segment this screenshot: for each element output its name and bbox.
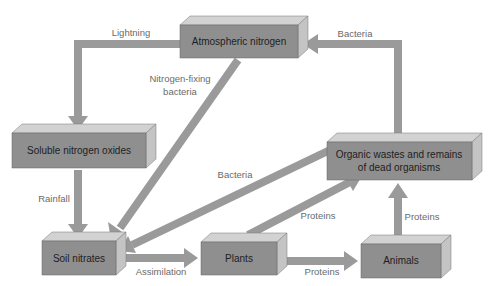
assimilation-label: Assimilation: [136, 266, 187, 277]
proteins-plants-organic-label: Proteins: [301, 210, 336, 221]
plants-label: Plants: [225, 253, 253, 264]
arrow-bacteria-to-atmosphere: [303, 34, 398, 138]
node-soil-nitrates: Soil nitrates: [42, 232, 126, 275]
nitrogen-cycle-diagram: Atmospheric nitrogen Soluble nitrogen ox…: [0, 0, 488, 286]
proteins-plants-animals-label: Proteins: [305, 266, 340, 277]
organic-wastes-label-line1: Organic wastes and remains: [336, 149, 463, 160]
organic-wastes-label-line2: of dead organisms: [358, 162, 440, 173]
proteins-animals-organic-label: Proteins: [405, 211, 440, 222]
bacteria-middle-label: Bacteria: [218, 169, 254, 180]
bacteria-top-label: Bacteria: [338, 28, 374, 39]
node-soluble-nitrogen-oxides: Soluble nitrogen oxides: [12, 124, 156, 168]
soluble-nitrogen-oxides-label: Soluble nitrogen oxides: [27, 145, 131, 156]
atmospheric-nitrogen-label: Atmospheric nitrogen: [192, 36, 287, 47]
nitrogen-fixing-label-line2: bacteria: [163, 86, 198, 97]
animals-label: Animals: [383, 255, 419, 266]
soil-nitrates-label: Soil nitrates: [53, 253, 105, 264]
node-plants: Plants: [201, 233, 287, 275]
node-animals: Animals: [361, 235, 451, 278]
rainfall-label: Rainfall: [38, 193, 70, 204]
lightning-label: Lightning: [112, 27, 151, 38]
nitrogen-fixing-label-line1: Nitrogen-fixing: [149, 73, 210, 84]
node-atmospheric-nitrogen: Atmospheric nitrogen: [180, 16, 308, 58]
arrow-rainfall: [68, 170, 88, 238]
node-organic-wastes: Organic wastes and remains of dead organ…: [327, 133, 482, 180]
